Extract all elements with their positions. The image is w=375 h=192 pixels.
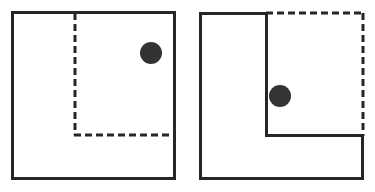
left-dot-marker (140, 42, 162, 64)
geometry-figure-canvas (0, 0, 375, 192)
right-dot-marker (269, 85, 291, 107)
canvas-background (0, 0, 375, 192)
